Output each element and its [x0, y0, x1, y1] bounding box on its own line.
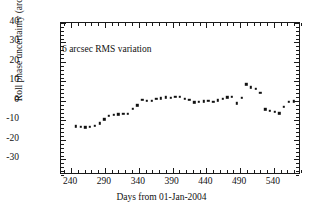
y-axis-minor-tick: [61, 144, 64, 145]
y-axis-minor-tick: [296, 97, 299, 98]
y-axis-tick: [61, 159, 66, 160]
x-axis-minor-tick: [132, 23, 133, 26]
y-axis-tick: [61, 120, 66, 121]
x-axis-minor-tick: [247, 23, 248, 26]
x-axis-minor-tick: [193, 170, 194, 173]
x-axis-minor-tick: [186, 23, 187, 26]
data-point: [240, 96, 242, 98]
y-axis-minor-tick: [296, 136, 299, 137]
x-axis-minor-tick: [294, 23, 295, 26]
x-axis-minor-tick: [301, 23, 302, 26]
data-point: [98, 122, 100, 124]
y-axis-minor-tick: [296, 93, 299, 94]
data-point: [84, 126, 86, 128]
data-point: [174, 96, 176, 98]
y-axis-minor-tick: [61, 85, 64, 86]
y-axis-tick-label: -30: [6, 153, 19, 163]
y-axis-tick: [61, 62, 66, 63]
y-axis-tick: [294, 140, 299, 141]
y-axis-minor-tick: [61, 132, 64, 133]
data-point: [245, 83, 247, 85]
x-axis-minor-tick: [91, 23, 92, 26]
y-axis-tick-label: 0: [14, 95, 19, 105]
y-axis-minor-tick: [61, 136, 64, 137]
x-axis-minor-tick: [233, 23, 234, 26]
data-point: [226, 96, 228, 98]
y-axis-minor-tick: [61, 117, 64, 118]
x-axis-title: Days from 01-Jan-2004: [0, 192, 323, 202]
y-axis-minor-tick: [61, 27, 64, 28]
y-axis-minor-tick: [61, 148, 64, 149]
y-axis-tick: [61, 140, 66, 141]
x-axis-tick: [105, 23, 106, 28]
y-axis-minor-tick: [296, 50, 299, 51]
data-point: [264, 108, 266, 110]
x-axis-minor-tick: [91, 170, 92, 173]
y-axis-minor-tick: [61, 128, 64, 129]
x-axis-minor-tick: [267, 170, 268, 173]
y-axis-tick-label: 40: [10, 17, 20, 27]
y-axis-minor-tick: [296, 46, 299, 47]
x-axis-minor-tick: [78, 170, 79, 173]
x-axis-minor-tick: [85, 23, 86, 26]
data-point: [127, 112, 129, 114]
y-axis-minor-tick: [296, 66, 299, 67]
y-axis-minor-tick: [61, 152, 64, 153]
y-axis-minor-tick: [61, 156, 64, 157]
y-axis-tick: [294, 62, 299, 63]
x-axis-minor-tick: [186, 170, 187, 173]
y-axis-tick: [294, 120, 299, 121]
data-point: [193, 101, 195, 103]
y-axis-minor-tick: [61, 89, 64, 90]
x-axis-minor-tick: [78, 23, 79, 26]
y-axis-minor-tick: [296, 113, 299, 114]
chart-figure: Roll phase uncertainty (arc sec) 4030201…: [0, 0, 323, 214]
data-point: [184, 97, 186, 99]
y-axis-minor-tick: [296, 132, 299, 133]
y-axis-minor-tick: [296, 78, 299, 79]
y-axis-minor-tick: [61, 74, 64, 75]
data-point: [160, 97, 162, 99]
x-axis-minor-tick: [227, 170, 228, 173]
x-axis-tick: [105, 168, 106, 173]
data-point: [250, 86, 252, 88]
data-point: [113, 113, 115, 115]
x-axis-minor-tick: [179, 170, 180, 173]
data-point: [75, 125, 77, 127]
x-axis-minor-tick: [112, 23, 113, 26]
y-axis-minor-tick: [296, 156, 299, 157]
x-axis-minor-tick: [146, 170, 147, 173]
y-axis-minor-tick: [296, 35, 299, 36]
data-point: [150, 99, 152, 101]
data-point: [165, 96, 167, 98]
x-axis-minor-tick: [64, 23, 65, 26]
data-point: [236, 102, 238, 104]
y-axis-minor-tick: [61, 109, 64, 110]
y-axis-tick: [294, 159, 299, 160]
x-axis-minor-tick: [220, 23, 221, 26]
x-axis-tick: [206, 168, 207, 173]
y-axis-minor-tick: [296, 148, 299, 149]
x-axis-minor-tick: [152, 170, 153, 173]
x-axis-minor-tick: [159, 23, 160, 26]
x-axis-tick: [206, 23, 207, 28]
x-axis-tick: [240, 23, 241, 28]
data-point: [207, 100, 209, 102]
x-axis-minor-tick: [98, 170, 99, 173]
y-axis-minor-tick: [296, 74, 299, 75]
data-point: [273, 110, 275, 112]
x-axis-minor-tick: [233, 170, 234, 173]
y-axis-minor-tick: [296, 128, 299, 129]
y-axis-minor-tick: [296, 117, 299, 118]
y-axis-tick: [294, 81, 299, 82]
x-axis-minor-tick: [118, 170, 119, 173]
data-point: [108, 115, 110, 117]
data-point: [254, 87, 256, 89]
y-axis-minor-tick: [61, 97, 64, 98]
y-axis-minor-tick: [296, 70, 299, 71]
y-axis-minor-tick: [296, 58, 299, 59]
x-axis-minor-tick: [166, 23, 167, 26]
x-axis-minor-tick: [200, 23, 201, 26]
data-point: [217, 99, 219, 101]
x-axis-minor-tick: [179, 23, 180, 26]
